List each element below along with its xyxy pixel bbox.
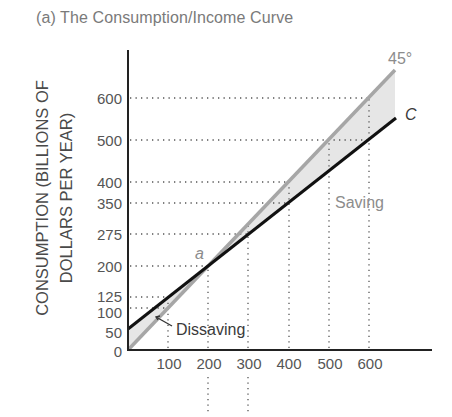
- y-tick-200: 200: [97, 258, 122, 275]
- consumption-line: [128, 118, 396, 329]
- c-line-label: C: [405, 106, 417, 123]
- saving-label: Saving: [335, 194, 384, 211]
- point-a-label: a: [195, 245, 204, 262]
- dissaving-label: Dissaving: [176, 321, 245, 338]
- y-axis-title-line1: CONSUMPTION (BILLIONS OF: [33, 80, 51, 316]
- x-tick-500: 500: [317, 355, 342, 372]
- y-tick-350: 350: [97, 195, 122, 212]
- y-tick-125: 125: [97, 288, 122, 305]
- y-axis-title-line2: DOLLARS PER YEAR): [57, 113, 75, 283]
- y-tick-100: 100: [97, 304, 122, 321]
- y-tick-500: 500: [97, 132, 122, 149]
- y-tick-labels: 600 500 400 350 275 200 125 100 50 0: [97, 90, 122, 360]
- x-tick-300: 300: [236, 355, 261, 372]
- x-tick-labels: 100 200 300 400 500 600: [156, 355, 382, 372]
- x-tick-100: 100: [156, 355, 181, 372]
- y-tick-50: 50: [105, 324, 122, 341]
- y-tick-600: 600: [97, 90, 122, 107]
- y-tick-400: 400: [97, 174, 122, 191]
- x-tick-400: 400: [276, 355, 301, 372]
- line-45-label: 45°: [388, 50, 412, 67]
- consumption-income-chart: CONSUMPTION (BILLIONS OF DOLLARS PER YEA…: [0, 0, 452, 417]
- x-tick-200: 200: [196, 355, 221, 372]
- y-tick-0: 0: [114, 343, 122, 360]
- x-tick-600: 600: [357, 355, 382, 372]
- y-tick-275: 275: [97, 226, 122, 243]
- horizontal-guides: [130, 98, 369, 308]
